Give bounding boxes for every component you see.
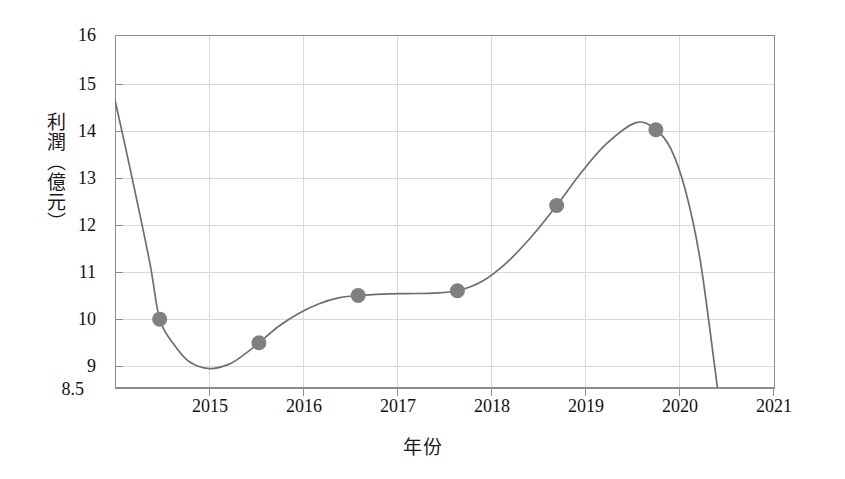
ytick-label-10: 10 [40,309,96,330]
profit-trend-curve [95,7,717,388]
xtick-label-2018: 2018 [452,396,532,417]
data-point-2015 [152,312,167,327]
y-tick-marks [115,85,123,367]
xtick-label-2019: 2019 [546,396,626,417]
ytick-label-9: 9 [40,356,96,377]
xtick-label-2020: 2020 [640,396,720,417]
data-point-2019 [549,198,564,213]
y-axis-title: 利潤（億元） [30,112,64,232]
ytick-label-8-5: 8.5 [28,379,84,400]
xtick-label-2021: 2021 [734,396,814,417]
ytick-label-11: 11 [40,262,96,283]
data-point-2016 [251,335,266,350]
plot-frame [116,36,775,389]
data-point-2017 [351,288,366,303]
ytick-label-15: 15 [40,74,96,95]
xtick-label-2016: 2016 [264,396,344,417]
horizontal-gridlines [115,85,775,367]
ytick-label-16: 16 [40,25,96,46]
xtick-label-2015: 2015 [170,396,250,417]
data-point-2018 [450,283,465,298]
xtick-label-2017: 2017 [358,396,438,417]
data-point-markers [152,122,663,350]
x-axis-title: 年份 [0,432,845,459]
x-tick-marks [210,388,774,396]
vertical-gridlines [210,35,680,388]
data-point-2020 [648,122,663,137]
chart-figure: 16 15 14 13 12 11 10 9 8.5 2015 2016 201… [0,0,845,479]
